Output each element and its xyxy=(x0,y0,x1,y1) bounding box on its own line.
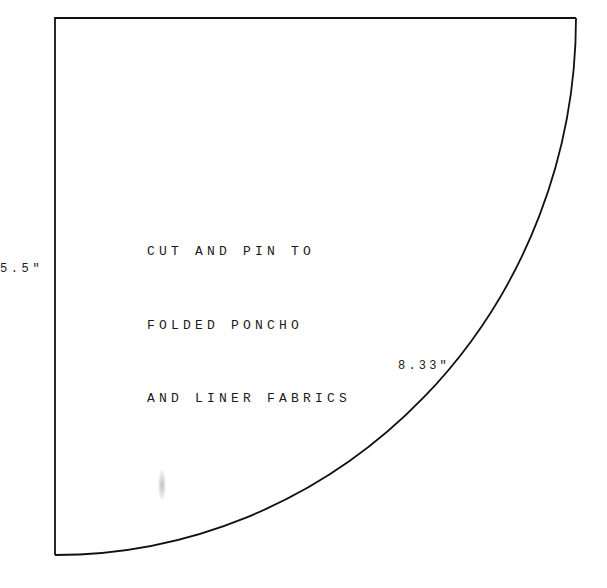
instruction-line-3: AND LINER FABRICS xyxy=(147,387,351,412)
scan-artifact xyxy=(158,470,166,500)
arc-dimension-label: 8.33" xyxy=(398,359,450,373)
instruction-line-1: CUT AND PIN TO xyxy=(147,240,351,265)
radius-dimension-label: 5.5" xyxy=(0,262,43,276)
pattern-instructions: CUT AND PIN TO FOLDED PONCHO AND LINER F… xyxy=(147,191,351,461)
instruction-line-2: FOLDED PONCHO xyxy=(147,314,351,339)
